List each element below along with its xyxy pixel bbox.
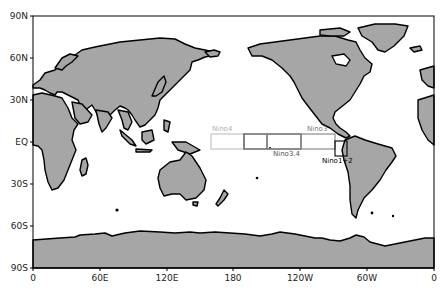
x-tick-label: 60W (357, 273, 377, 283)
kerguelen-island (115, 208, 118, 211)
pacific-island (256, 177, 259, 180)
y-axis: 90N 60N 30N EQ 30S 60S 90S (10, 11, 33, 273)
y-tick-label: 60N (10, 53, 28, 63)
x-tick-label: 60E (91, 273, 108, 283)
nino12-label: Nino1+2 (322, 157, 353, 165)
x-axis: 0 60E 120E 180 120W 60W 0 (30, 268, 437, 283)
x-tick-label: 0 (30, 273, 36, 283)
y-tick-label: 30N (10, 95, 28, 105)
tasmania (193, 202, 198, 206)
y-tick-label: 30S (11, 179, 28, 189)
y-tick-label: 90N (10, 11, 28, 21)
nino3-label: Nino3 (307, 125, 327, 133)
x-tick-label: 120W (287, 273, 313, 283)
x-tick-label: 0 (431, 273, 437, 283)
y-tick-label: 60S (11, 221, 28, 231)
world-map: Nino4 Nino3.4 Nino3 Nino1+2 90N 60N 30N … (0, 0, 447, 292)
south-georgia (392, 215, 394, 217)
java (136, 149, 152, 152)
x-tick-label: 120E (156, 273, 179, 283)
nino34-label: Nino3.4 (273, 150, 301, 158)
madagascar (80, 158, 88, 176)
x-tick-label: 180 (224, 273, 241, 283)
nino4-label: Nino4 (212, 125, 233, 133)
falkland-islands (371, 212, 374, 215)
y-tick-label: EQ (15, 137, 28, 147)
y-tick-label: 90S (11, 263, 28, 273)
